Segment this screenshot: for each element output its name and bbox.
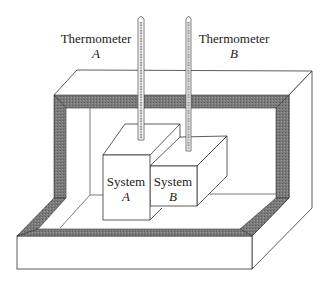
enclosure-base-front: [17, 236, 252, 269]
system-a-label: System: [107, 174, 145, 189]
system-a-side-bottom: [150, 208, 162, 220]
thermometer-a-label: Thermometer: [61, 31, 132, 46]
system-a-letter: A: [121, 189, 130, 204]
thermometer-b: [186, 17, 191, 152]
thermal-equilibrium-diagram: Thermometer A Thermometer B System A Sys…: [0, 0, 325, 283]
system-b-letter: B: [169, 189, 177, 204]
system-b-label: System: [154, 174, 192, 189]
thermometer-b-letter: B: [230, 46, 238, 61]
thermometer-a: [138, 17, 144, 141]
diagram-svg: Thermometer A Thermometer B System A Sys…: [0, 0, 325, 283]
thermometer-a-letter: A: [91, 46, 100, 61]
enclosure-top-rim: [54, 70, 312, 95]
thermometer-b-label: Thermometer: [199, 31, 270, 46]
